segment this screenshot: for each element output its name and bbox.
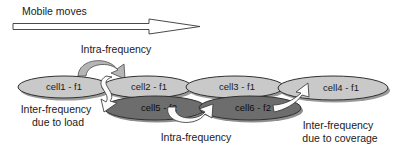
- cell2-label: cell2 - f1: [131, 81, 167, 92]
- annotation-inter-frequency-coverage-line2: due to coverage: [302, 132, 377, 144]
- cell6-label: cell6 - f2: [235, 102, 271, 113]
- cell-cell5[interactable]: cell5 - f2: [104, 96, 206, 120]
- intra-frequency-top-arrow: [78, 61, 125, 79]
- cell3-label: cell3 - f1: [219, 81, 255, 92]
- mobile-moves-arrow-shape: [13, 19, 200, 34]
- intra-frequency-top-arrow-shape: [78, 61, 125, 79]
- cell-cell4[interactable]: cell4 - f1: [278, 76, 388, 100]
- annotation-inter-frequency-coverage: Inter-frequency due to coverage: [302, 119, 377, 144]
- annotation-inter-frequency-coverage-line1: Inter-frequency: [303, 119, 374, 131]
- cell-cell2[interactable]: cell2 - f1: [102, 76, 192, 98]
- annotation-inter-frequency-load: Inter-frequency due to load: [21, 103, 92, 128]
- mobile-moves-arrow: [13, 19, 200, 34]
- cell-cell1[interactable]: cell1 - f1: [18, 76, 110, 98]
- diagram-canvas: Mobile moves cell1 - f1 cell2 - f1 cell3…: [0, 0, 405, 151]
- cell-cell3[interactable]: cell3 - f1: [186, 76, 284, 98]
- annotation-inter-frequency-load-line2: due to load: [32, 116, 84, 128]
- cell1-label: cell1 - f1: [46, 81, 82, 92]
- mobile-moves-label: Mobile moves: [22, 5, 87, 17]
- annotation-intra-frequency-top: Intra-frequency: [81, 43, 152, 55]
- cell4-label: cell4 - f1: [323, 82, 359, 93]
- annotation-inter-frequency-load-line1: Inter-frequency: [21, 103, 92, 115]
- annotation-intra-frequency-bottom: Intra-frequency: [161, 131, 232, 143]
- handover-diagram: Mobile moves cell1 - f1 cell2 - f1 cell3…: [0, 0, 405, 151]
